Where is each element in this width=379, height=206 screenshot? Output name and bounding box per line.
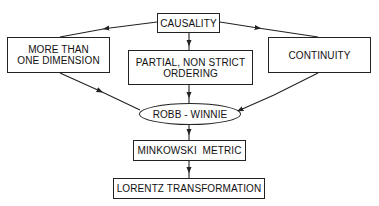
node-continuity: CONTINUITY <box>268 37 371 73</box>
edge-causality-to-continuity <box>220 22 318 37</box>
edge-causality-to-more-dims <box>60 22 157 37</box>
node-more-than-one-dimension: MORE THAN ONE DIMENSION <box>7 37 110 73</box>
causality-flow-diagram: CAUSALITY MORE THAN ONE DIMENSION PARTIA… <box>0 0 379 206</box>
node-causality: CAUSALITY <box>157 13 220 33</box>
node-lorentz-transformation: LORENTZ TRANSFORMATION <box>113 178 265 199</box>
node-minkowski-metric: MINKOWSKI METRIC <box>133 140 246 161</box>
node-robb-winnie: ROBB - WINNIE <box>139 103 241 125</box>
node-partial-non-strict-ordering: PARTIAL, NON STRICT ORDERING <box>128 50 253 85</box>
